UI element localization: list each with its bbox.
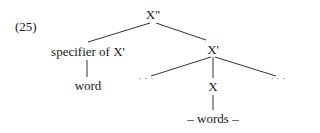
node-bar: X' [207, 43, 219, 57]
node-words: – words – [187, 112, 238, 126]
node-root: X" [146, 8, 161, 22]
edge-root-specifier [88, 23, 150, 42]
node-right-dots: · · · [271, 72, 286, 86]
node-head: X [208, 80, 217, 94]
node-word: word [75, 79, 102, 93]
edge-bar-left-dots [151, 57, 211, 76]
edge-bar-right-dots [215, 57, 276, 76]
node-specifier: specifier of X' [51, 45, 125, 59]
edge-root-bar [156, 23, 206, 40]
node-left-dots: · · · [139, 72, 154, 86]
